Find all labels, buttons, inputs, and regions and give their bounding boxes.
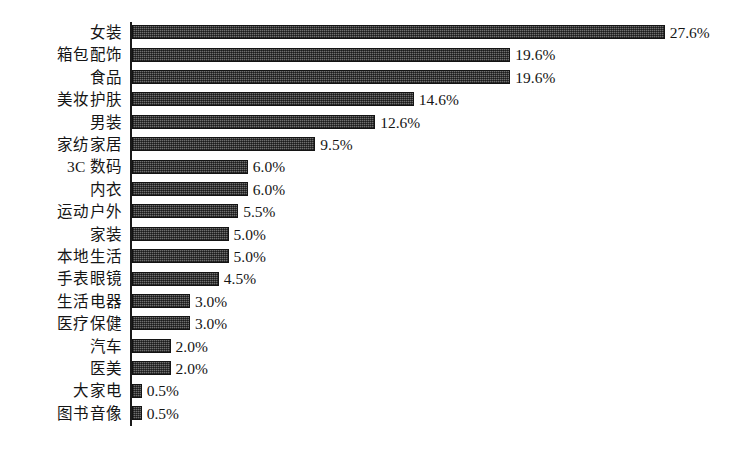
bar: [132, 70, 510, 84]
bar-wrapper: [132, 204, 238, 218]
bar-wrapper: [132, 160, 248, 174]
bar: [132, 137, 315, 151]
bar: [132, 384, 142, 398]
bar-wrapper: [132, 92, 414, 106]
bar-row: 食品19.6%: [0, 67, 752, 89]
plot-area: 女装27.6%箱包配饰19.6%食品19.6%美妆护肤14.6%男装12.6%家…: [0, 22, 752, 426]
bar: [132, 227, 229, 241]
bar: [132, 406, 142, 420]
bar-row: 汽车2.0%: [0, 336, 752, 358]
category-label: 医美: [0, 359, 122, 378]
category-label: 3C 数码: [0, 157, 122, 176]
value-label: 3.0%: [195, 292, 227, 311]
bar-wrapper: [132, 406, 142, 420]
bar: [132, 182, 248, 196]
bar-wrapper: [132, 361, 171, 375]
bar-row: 手表眼镜4.5%: [0, 268, 752, 290]
value-label: 6.0%: [253, 157, 285, 176]
bar-wrapper: [132, 294, 190, 308]
bar-row: 男装12.6%: [0, 112, 752, 134]
bar: [132, 272, 219, 286]
bar-row: 家装5.0%: [0, 224, 752, 246]
category-label: 汽车: [0, 337, 122, 356]
bar: [132, 249, 229, 263]
bar-row: 本地生活5.0%: [0, 246, 752, 268]
value-label: 4.5%: [224, 269, 256, 288]
value-label: 0.5%: [147, 381, 179, 400]
bar: [132, 316, 190, 330]
bar-row: 内衣6.0%: [0, 179, 752, 201]
bar-wrapper: [132, 70, 510, 84]
bar-chart: 女装27.6%箱包配饰19.6%食品19.6%美妆护肤14.6%男装12.6%家…: [0, 0, 752, 452]
bar-row: 3C 数码6.0%: [0, 156, 752, 178]
bar-row: 箱包配饰19.6%: [0, 44, 752, 66]
bar-wrapper: [132, 384, 142, 398]
bar-wrapper: [132, 137, 315, 151]
value-label: 2.0%: [176, 337, 208, 356]
bar-wrapper: [132, 25, 665, 39]
category-label: 女装: [0, 23, 122, 42]
bar: [132, 25, 665, 39]
value-label: 5.0%: [234, 247, 266, 266]
bar-row: 医疗保健3.0%: [0, 313, 752, 335]
bar-row: 运动户外5.5%: [0, 201, 752, 223]
bar-wrapper: [132, 227, 229, 241]
value-label: 5.0%: [234, 225, 266, 244]
category-label: 美妆护肤: [0, 90, 122, 109]
category-label: 食品: [0, 68, 122, 87]
value-label: 5.5%: [243, 202, 275, 221]
category-label: 手表眼镜: [0, 269, 122, 288]
category-label: 医疗保健: [0, 314, 122, 333]
bar: [132, 294, 190, 308]
value-label: 6.0%: [253, 180, 285, 199]
bar: [132, 339, 171, 353]
category-label: 内衣: [0, 180, 122, 199]
value-label: 27.6%: [670, 23, 710, 42]
bar: [132, 160, 248, 174]
value-label: 9.5%: [320, 135, 352, 154]
value-label: 0.5%: [147, 404, 179, 423]
bar: [132, 361, 171, 375]
bar-wrapper: [132, 182, 248, 196]
bar-row: 女装27.6%: [0, 22, 752, 44]
category-label: 本地生活: [0, 247, 122, 266]
bar-wrapper: [132, 115, 375, 129]
value-label: 19.6%: [515, 68, 555, 87]
bar-wrapper: [132, 249, 229, 263]
bar-wrapper: [132, 339, 171, 353]
bar-row: 图书音像0.5%: [0, 403, 752, 425]
bar-wrapper: [132, 316, 190, 330]
value-label: 12.6%: [380, 113, 420, 132]
bar-row: 医美2.0%: [0, 358, 752, 380]
value-label: 3.0%: [195, 314, 227, 333]
bar-wrapper: [132, 272, 219, 286]
category-label: 男装: [0, 113, 122, 132]
bar: [132, 48, 510, 62]
bar: [132, 92, 414, 106]
category-label: 大家电: [0, 381, 122, 400]
category-label: 运动户外: [0, 202, 122, 221]
category-label: 家装: [0, 225, 122, 244]
bar-row: 家纺家居9.5%: [0, 134, 752, 156]
bar: [132, 115, 375, 129]
value-label: 19.6%: [515, 45, 555, 64]
bar-wrapper: [132, 48, 510, 62]
category-label: 家纺家居: [0, 135, 122, 154]
category-label: 生活电器: [0, 292, 122, 311]
value-label: 14.6%: [419, 90, 459, 109]
category-label: 图书音像: [0, 404, 122, 423]
bar-row: 大家电0.5%: [0, 380, 752, 402]
bar-row: 美妆护肤14.6%: [0, 89, 752, 111]
value-label: 2.0%: [176, 359, 208, 378]
category-label: 箱包配饰: [0, 45, 122, 64]
bar: [132, 204, 238, 218]
bar-row: 生活电器3.0%: [0, 291, 752, 313]
